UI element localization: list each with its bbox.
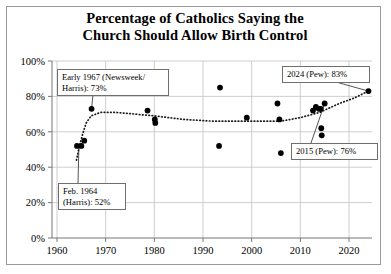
y-tick-label: 0% [31, 233, 45, 244]
annotation-pew-2015: 2015 (Pew): 76% [291, 143, 378, 160]
data-point [318, 125, 324, 131]
plot-area: 1960197019801990200020102020 0%20%40%60%… [0, 0, 391, 274]
y-tick-label: 40% [26, 162, 46, 173]
x-tick-label: 1980 [144, 245, 165, 256]
data-point [78, 143, 84, 149]
data-point [145, 108, 151, 114]
annotation-feb-1964: Feb. 1964 (Harris): 52% [58, 183, 126, 210]
annotation-early-1967: Early 1967 (Newsweek/ Harris): 73% [57, 69, 169, 96]
data-point [81, 138, 87, 144]
y-tick-label: 20% [26, 197, 46, 208]
x-tick-label: 1990 [193, 245, 214, 256]
leader-line [336, 82, 368, 91]
data-point [319, 132, 325, 138]
x-tick-label: 2020 [339, 245, 360, 256]
y-tick-label: 60% [26, 127, 46, 138]
data-point [322, 101, 328, 107]
y-tick-label: 80% [26, 91, 46, 102]
x-tick-label: 1970 [95, 245, 116, 256]
data-point [89, 106, 95, 112]
chart-figure: Percentage of Catholics Saying the Churc… [0, 0, 391, 274]
data-point [152, 120, 158, 126]
x-tick-labels: 1960197019801990200020102020 [47, 245, 360, 256]
y-tick-label: 100% [21, 56, 46, 67]
data-point [216, 143, 222, 149]
data-point [318, 106, 324, 112]
annotation-leader-lines [78, 82, 368, 183]
data-point [244, 115, 250, 121]
y-tick-labels: 0%20%40%60%80%100% [21, 56, 46, 244]
data-point [275, 101, 281, 107]
x-tick-label: 2010 [290, 245, 311, 256]
annotation-pew-2024: 2024 (Pew): 83% [282, 66, 370, 83]
data-point [278, 150, 284, 156]
data-point [366, 88, 372, 94]
data-point [217, 85, 223, 91]
x-tick-label: 1960 [47, 245, 68, 256]
data-point [277, 117, 283, 123]
x-tick-label: 2000 [241, 245, 262, 256]
